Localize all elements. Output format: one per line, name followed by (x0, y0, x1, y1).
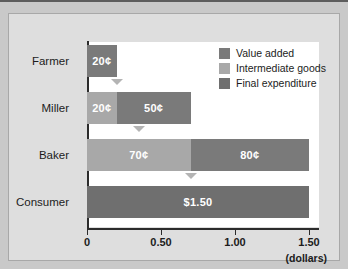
figure-container: 00.501.001.50Farmer20¢Miller20¢50¢Baker7… (0, 0, 348, 269)
x-axis-tick-label: 0 (84, 236, 90, 248)
top-divider-rule (0, 0, 348, 2)
chart-legend: Value addedIntermediate goodsFinal expen… (219, 47, 326, 89)
bar-segment-final-expenditure: $1.50 (87, 186, 309, 218)
bar-segment-intermediate-goods: 20¢ (87, 92, 117, 124)
y-axis-category-label: Miller (0, 102, 69, 114)
x-axis-unit-label: (dollars) (286, 252, 327, 264)
bar-value-label: 70¢ (129, 149, 148, 161)
x-axis-tick-label: 0.50 (150, 236, 171, 248)
bar-segment-intermediate-goods: 70¢ (87, 139, 191, 171)
flow-marker-triangle-icon (111, 79, 123, 85)
bar-segment-value-added: 50¢ (117, 92, 191, 124)
y-axis-category-label: Consumer (0, 196, 69, 208)
legend-label: Final expenditure (236, 77, 317, 89)
x-axis-tick (161, 230, 162, 235)
legend-swatch-icon (219, 78, 230, 89)
x-axis-tick (87, 230, 88, 235)
legend-label: Value added (236, 47, 294, 59)
bar-value-label: 50¢ (144, 102, 163, 114)
y-axis-category-label: Farmer (0, 55, 69, 67)
bar-segment-value-added: 80¢ (191, 139, 309, 171)
y-axis-category-label: Baker (0, 149, 69, 161)
bar-value-label: 20¢ (92, 102, 111, 114)
flow-marker-triangle-icon (133, 126, 145, 132)
x-axis-tick (309, 230, 310, 235)
x-axis-tick (235, 230, 236, 235)
bar-value-label: 80¢ (240, 149, 259, 161)
bar-value-label: 20¢ (92, 55, 111, 67)
legend-label: Intermediate goods (236, 62, 326, 74)
chart-panel: 00.501.001.50Farmer20¢Miller20¢50¢Baker7… (8, 13, 340, 261)
legend-swatch-icon (219, 48, 230, 59)
legend-swatch-icon (219, 63, 230, 74)
x-axis-tick-label: 1.50 (298, 236, 319, 248)
bar-value-label: $1.50 (183, 196, 212, 208)
legend-item: Value added (219, 47, 326, 59)
legend-item: Intermediate goods (219, 62, 326, 74)
flow-marker-triangle-icon (185, 173, 197, 179)
x-axis-line (87, 228, 319, 230)
bar-segment-value-added: 20¢ (87, 45, 117, 77)
x-axis-tick-label: 1.00 (224, 236, 245, 248)
legend-item: Final expenditure (219, 77, 326, 89)
